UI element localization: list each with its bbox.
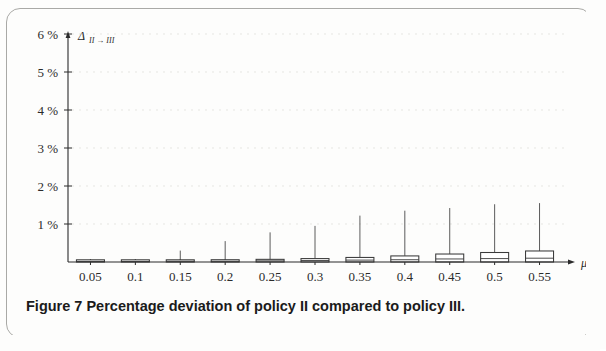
- x-axis-tick-label: 0.5: [487, 269, 503, 284]
- page-edge-mask-right: [586, 0, 606, 349]
- box-plot-series: [76, 203, 553, 262]
- x-axis-tick-label: 0.05: [79, 269, 102, 284]
- x-axis-tick-label: 0.35: [349, 269, 372, 284]
- x-axis-arrow-icon: [568, 260, 575, 265]
- x-axis-tick-label: 0.4: [397, 269, 414, 284]
- box-plot-item: [256, 232, 284, 262]
- box-plot-item: [526, 203, 554, 262]
- y-axis-tick-label: 1 %: [37, 217, 58, 232]
- caption-text: Percentage deviation of policy II compar…: [86, 298, 465, 314]
- box-plot-item: [481, 204, 509, 262]
- box-plot-item: [301, 226, 329, 262]
- x-axis-tick-label: 0.55: [528, 269, 551, 284]
- y-axis-tick-label: 6 %: [37, 27, 58, 42]
- y-axis-tick-label: 5 %: [37, 65, 58, 80]
- y-axis-tick-label: 4 %: [37, 103, 58, 118]
- x-axis-tick-label: 0.1: [127, 269, 143, 284]
- x-axis-tick-label: 0.45: [438, 269, 461, 284]
- box-plot-item: [211, 241, 239, 262]
- gridlines-group: [72, 34, 566, 224]
- figure-caption: Figure 7 Percentage deviation of policy …: [26, 296, 566, 317]
- x-axis-tick-label: 0.2: [217, 269, 233, 284]
- box-plot-item: [436, 208, 464, 262]
- page-edge-mask-bottom: [0, 335, 600, 351]
- x-axis-tick-label: 0.25: [259, 269, 282, 284]
- box-plot-chart: 6 %5 %4 %3 %2 %1 % 0.050.10.150.20.250.3…: [0, 0, 600, 290]
- y-axis-label: Δ: [77, 29, 85, 43]
- x-axis-ticks-group: 0.050.10.150.20.250.30.350.40.450.50.55: [79, 259, 551, 284]
- chart-plot-area: 6 %5 %4 %3 %2 %1 % 0.050.10.150.20.250.3…: [0, 0, 600, 290]
- x-axis-tick-label: 0.15: [169, 269, 192, 284]
- box-plot-item: [346, 216, 374, 262]
- box-plot-item: [391, 211, 419, 262]
- caption-label: Figure 7: [26, 298, 82, 314]
- box-plot-item: [166, 251, 194, 262]
- y-axis-tick-label: 2 %: [37, 179, 58, 194]
- x-axis-tick-label: 0.3: [307, 269, 323, 284]
- y-axis-tick-label: 3 %: [37, 141, 58, 156]
- y-axis-ticks-group: 6 %5 %4 %3 %2 %1 %: [37, 27, 72, 232]
- y-axis-label-subscript: II → III: [88, 36, 115, 45]
